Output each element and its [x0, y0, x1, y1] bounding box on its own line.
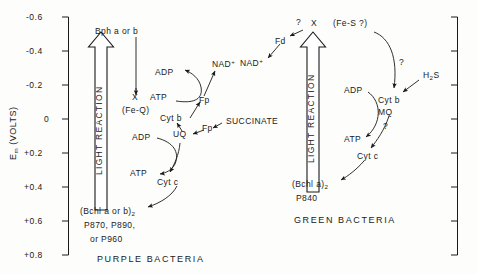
axis-tick-label: +0.2: [24, 148, 43, 158]
axis-tick-label: -0.2: [26, 80, 43, 90]
green-question-lower: ?: [383, 122, 388, 131]
arrow-fd-to-nad: [268, 44, 280, 58]
purple-bph-label: Bph a or b: [95, 27, 138, 36]
diagram-vector-layer: [0, 0, 477, 274]
cytc-text: Cyt: [157, 177, 171, 187]
nad-text: NAD: [212, 59, 231, 69]
axis-tick-label: +0.6: [24, 216, 43, 226]
rc-italic: a or b: [104, 206, 128, 216]
green-mq-label: MQ: [378, 108, 393, 117]
cytb-text-green: Cyt: [378, 95, 392, 105]
axis-tick-label: -0.4: [26, 46, 43, 56]
green-cytc-label: Cyt c: [357, 152, 378, 161]
arrow-uq-to-cytc: [170, 143, 180, 172]
right-axis: [451, 17, 458, 255]
bph-italic-text: a or b: [114, 26, 138, 36]
purple-feq-label: (Fe-Q): [122, 106, 149, 115]
rc-subscript-green: 2: [325, 183, 329, 190]
axis-title-subscript: m: [12, 148, 19, 154]
purple-atp-upper-label: ATP: [150, 93, 167, 102]
arrow-h2s-to-cytb: [403, 80, 419, 92]
green-atp-label: ATP: [344, 135, 361, 144]
purple-x-label: X: [132, 93, 138, 102]
axis-tick-label: +0.8: [24, 250, 43, 260]
cytc-text-green: Cyt: [357, 151, 371, 161]
green-light-reaction-label: LIGHT REACTION: [306, 74, 316, 163]
arrow-atp-adp-upper: [176, 70, 201, 102]
rc-subscript: 2: [132, 210, 136, 217]
purple-bacteria-caption: PURPLE BACTERIA: [97, 254, 205, 264]
rc-prefix: (Bchl: [80, 206, 101, 216]
arrow-fp-to-nad: [204, 71, 215, 96]
arrow-succinate-to-fp: [213, 123, 222, 128]
green-reaction-center-line1: (Bchl a)2: [292, 180, 328, 190]
green-fd-label: Fd: [275, 37, 286, 46]
green-fes-label: (Fe-S ?): [333, 19, 367, 28]
purple-succinate-label: SUCCINATE: [226, 117, 278, 126]
h2s-tail: S: [433, 70, 439, 80]
axis-title: Em (VOLTS): [8, 106, 19, 160]
rc-prefix-green: (Bchl: [292, 179, 313, 189]
arrow-adp-atp-lower: [157, 138, 177, 174]
green-question-top: ?: [296, 18, 301, 27]
arrow-adp-atp-green: [366, 92, 378, 137]
left-axis: [62, 17, 69, 255]
purple-reaction-center-line2: P870, P890,: [84, 221, 135, 230]
purple-adp-lower-label: ADP: [132, 133, 151, 142]
figure-canvas: Em (VOLTS) -0.6 -0.4 -0.2 0 +0.2 +0.4 +0…: [0, 0, 477, 274]
purple-uq-label: UQ: [173, 130, 187, 139]
cytc-italic-green: c: [374, 151, 379, 161]
nad-charge-green: +: [259, 57, 263, 64]
green-bacteria-caption: GREEN BACTERIA: [294, 215, 396, 225]
axis-title-unit: (VOLTS): [8, 106, 18, 144]
arrow-x-to-fd: [290, 30, 303, 36]
cytb-italic-green: b: [395, 95, 400, 105]
arrow-cytc-to-rc: [148, 186, 177, 207]
purple-reaction-center-line1: (Bchl a or b)2: [80, 207, 135, 217]
purple-reaction-center-line3: or P960: [90, 235, 123, 244]
axis-tick-label: -0.6: [26, 12, 43, 22]
purple-fp-upper-label: Fp: [199, 96, 210, 105]
green-h2s-label: H2S: [423, 71, 439, 81]
cytb-text: Cyt: [160, 113, 174, 123]
purple-cytb-label: Cyt b: [160, 114, 182, 123]
cytb-italic: b: [177, 113, 182, 123]
green-nad-label: NAD+: [240, 58, 263, 68]
green-reaction-center-line2: P840: [296, 194, 317, 203]
axis-title-symbol: E: [8, 153, 18, 160]
green-x-label: X: [311, 19, 317, 28]
cytc-italic: c: [174, 177, 179, 187]
purple-nad-label: NAD+: [212, 59, 235, 69]
green-adp-label: ADP: [344, 86, 363, 95]
axis-tick-label: +0.4: [24, 182, 43, 192]
nad-charge: +: [231, 58, 235, 65]
purple-atp-lower-label: ATP: [130, 169, 147, 178]
purple-adp-upper-label: ADP: [155, 68, 174, 77]
arrow-cytc-to-rc-green: [341, 161, 364, 180]
nad-text-green: NAD: [240, 58, 259, 68]
axis-tick-label: 0: [44, 114, 49, 124]
purple-light-reaction-label: LIGHT REACTION: [94, 86, 104, 175]
arrow-fes-to-cytb: [374, 32, 395, 88]
purple-cytc-label: Cyt c: [157, 178, 178, 187]
green-question-right: ?: [399, 58, 404, 67]
bph-text: Bph: [95, 26, 111, 36]
purple-fp-lower-label: Fp: [202, 124, 213, 133]
green-cytb-label: Cyt b: [378, 96, 400, 105]
